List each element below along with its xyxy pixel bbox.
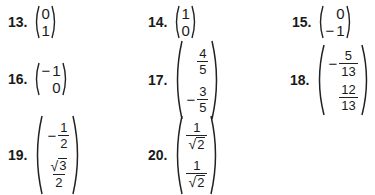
vector-entry: 45 xyxy=(195,47,208,76)
vector-entry: 1 √2 xyxy=(186,121,207,152)
left-paren-icon xyxy=(317,5,324,39)
column-vector: 0 −1 xyxy=(317,5,352,39)
left-paren-icon xyxy=(33,5,40,39)
problem-number: 17. xyxy=(148,72,167,88)
column-vector: 1 √2 1 √2 xyxy=(173,115,220,195)
problem-number: 20. xyxy=(148,147,167,163)
problem-number: 19. xyxy=(8,147,27,163)
problem-number: 14. xyxy=(148,14,167,30)
vector-entry: 1 √2 xyxy=(186,159,207,190)
square-root: √2 xyxy=(188,137,205,152)
vector-entry: −1 xyxy=(325,23,344,38)
column-vector: −1 0 xyxy=(33,62,68,96)
problem-18: 18. − 513 1213 xyxy=(290,44,371,116)
right-paren-icon xyxy=(51,5,58,39)
right-paren-icon xyxy=(361,44,371,116)
vector-entry: 1 xyxy=(41,23,49,38)
fraction: 12 xyxy=(58,121,69,150)
fraction: 513 xyxy=(339,49,357,78)
fraction: 35 xyxy=(197,85,208,114)
left-paren-icon xyxy=(173,40,183,120)
vector-entry: 0 xyxy=(50,80,60,95)
left-paren-icon xyxy=(173,115,183,195)
radical-icon: √ xyxy=(50,159,58,173)
column-vector: 0 1 xyxy=(33,5,57,39)
vector-entry: 1213 xyxy=(337,83,357,112)
fraction: √3 2 xyxy=(48,158,69,189)
fraction: 1 √2 xyxy=(186,159,207,190)
column-vector: − 513 1213 xyxy=(315,44,370,116)
problem-number: 16. xyxy=(8,71,27,87)
radical-icon: √ xyxy=(188,175,196,189)
problem-number: 15. xyxy=(292,14,311,30)
problem-13: 13. 0 1 xyxy=(8,5,58,39)
right-paren-icon xyxy=(191,5,198,39)
column-vector: − 12 √3 2 xyxy=(33,115,82,195)
left-paren-icon xyxy=(33,62,40,96)
vector-entry: 0 xyxy=(41,6,49,21)
vector-entry: 0 xyxy=(334,6,344,21)
problem-20: 20. 1 √2 1 √2 xyxy=(148,115,220,195)
fraction: 1 √2 xyxy=(186,121,207,152)
left-paren-icon xyxy=(33,115,43,195)
column-vector: 1 0 xyxy=(173,5,197,39)
problem-number: 13. xyxy=(8,14,27,30)
problem-17: 17. 45 − 35 xyxy=(148,40,221,120)
problem-number: 18. xyxy=(290,72,309,88)
left-paren-icon xyxy=(173,5,180,39)
fraction: 45 xyxy=(197,47,208,76)
problem-15: 15. 0 −1 xyxy=(292,5,353,39)
vector-entry: 0 xyxy=(181,23,189,38)
vector-entry: −1 xyxy=(41,63,60,78)
square-root: √3 xyxy=(50,158,67,173)
vector-entry: √3 2 xyxy=(46,158,69,189)
vector-entry: 1 xyxy=(181,6,189,21)
problem-16: 16. −1 0 xyxy=(8,62,69,96)
right-paren-icon xyxy=(72,115,82,195)
right-paren-icon xyxy=(210,115,220,195)
fraction: 1213 xyxy=(339,83,357,112)
radical-icon: √ xyxy=(188,137,196,151)
right-paren-icon xyxy=(211,40,221,120)
left-paren-icon xyxy=(315,44,325,116)
square-root: √2 xyxy=(188,175,205,190)
problem-14: 14. 1 0 xyxy=(148,5,198,39)
right-paren-icon xyxy=(62,62,69,96)
right-paren-icon xyxy=(346,5,353,39)
problem-19: 19. − 12 √3 2 xyxy=(8,115,82,195)
column-vector: 45 − 35 xyxy=(173,40,221,120)
vector-entry: − 12 xyxy=(47,121,69,150)
vector-entry: − 35 xyxy=(186,85,208,114)
vector-entry: − 513 xyxy=(328,49,357,78)
